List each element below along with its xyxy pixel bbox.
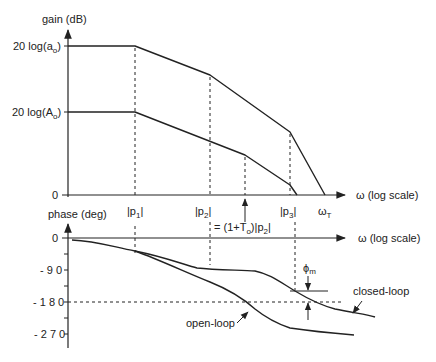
tick-label-omega-T: ωT [318,205,332,220]
tick-label-p3: |p3| [280,205,296,220]
closed-loop-gain-curve [68,112,297,195]
closed-loop-phase-curve [72,240,375,317]
tick-label-0: 0 [52,232,58,244]
tick-label-A0: 20 log(Ao) [12,106,61,121]
closed-loop-pointer [353,301,362,313]
closed-loop-label: closed-loop [353,285,409,297]
phase-x-axis-label: ω (log scale) [358,232,420,244]
tick-label-a0: 20 log(ao) [13,40,61,55]
tick-label-neg180: - 1 8 0 [33,296,64,308]
closed-loop-pole-annotation: = (1+To)|p2| [214,221,271,236]
gain-x-axis-label: ω (log scale) [356,189,418,201]
tick-label-p2: |p2| [195,205,211,220]
gain-plot: gain (dB) ω (log scale) 20 log(ao) 20 lo… [12,13,418,236]
open-loop-label: open-loop [186,317,235,329]
phase-axis-label: phase (deg) [48,208,107,220]
open-loop-pointer [237,312,248,323]
tick-label-neg270: - 2 7 0 [34,328,65,340]
tick-label-neg90: - 9 0 [40,264,62,276]
gain-axis-label: gain (dB) [42,13,87,25]
tick-label-p1: |p1| [127,205,143,220]
open-loop-phase-curve [135,251,354,335]
open-loop-gain-curve [68,46,325,195]
phase-margin-label: ϕm [303,262,316,276]
tick-label-zero-gain: 0 [52,189,58,201]
bode-diagram: gain (dB) ω (log scale) 20 log(ao) 20 lo… [0,0,436,362]
